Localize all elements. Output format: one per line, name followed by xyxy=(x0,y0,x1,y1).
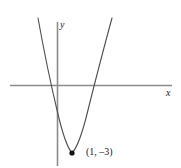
plot-canvas xyxy=(0,0,181,168)
vertex-coordinate-label: (1, –3) xyxy=(86,147,113,157)
vertex-point-marker xyxy=(69,150,74,155)
x-axis-label: x xyxy=(166,88,170,98)
y-axis-label: y xyxy=(60,20,64,30)
parabola-figure: y x (1, –3) xyxy=(0,0,181,168)
